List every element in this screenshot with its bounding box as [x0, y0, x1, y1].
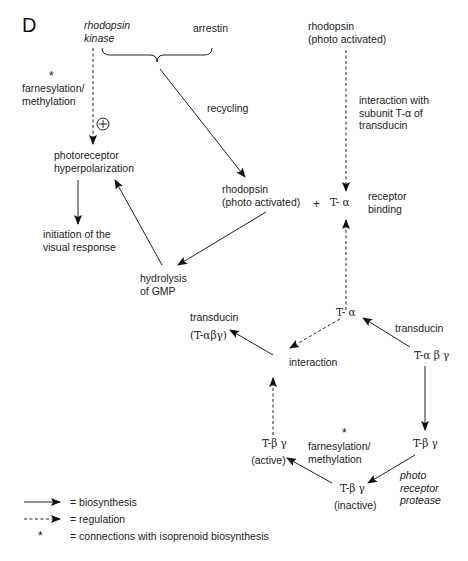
- rhodopsin-kinase-label: rhodopsin kinase: [84, 19, 130, 44]
- photo-receptor-protease-label: photo receptor protease: [400, 469, 441, 507]
- label-line: kinase: [84, 32, 130, 45]
- isoprenoid-star-icon: *: [49, 70, 54, 82]
- recycling-label: recycling: [207, 102, 248, 115]
- label-line: hydrolysis: [140, 272, 187, 285]
- label-line: photoreceptor: [54, 149, 134, 162]
- label-line: rhodopsin: [84, 19, 130, 32]
- label-line: binding: [368, 203, 407, 216]
- legend-biosynthesis: = biosynthesis: [70, 496, 137, 509]
- farnesylation-bottom-label: farnesylation/ methylation: [308, 440, 370, 465]
- transducin-left-label: transducin (T-αβγ): [190, 311, 238, 341]
- label-line: methylation: [22, 95, 84, 108]
- legend-isoprenoid: = connections with isoprenoid biosynthes…: [70, 530, 269, 543]
- label-line: (T-αβγ): [190, 329, 238, 342]
- label-line: (photo activated): [222, 196, 300, 209]
- plus-sign: +: [313, 198, 320, 211]
- label-line: rhodopsin: [222, 183, 300, 196]
- label-line: subunit T-α of: [359, 107, 429, 120]
- transducin-right-label: transducin: [395, 322, 443, 335]
- label-line: receptor: [368, 190, 407, 203]
- legend-star-icon: *: [38, 530, 43, 542]
- label-line: (photo activated): [308, 33, 386, 46]
- arrestin-label: arrestin: [193, 22, 228, 35]
- panel-label: D: [22, 14, 36, 37]
- rhodopsin-top-label: rhodopsin (photo activated): [308, 20, 386, 45]
- receptor-binding-label: receptor binding: [368, 190, 407, 215]
- label-line: initiation of the: [43, 228, 116, 241]
- t-alpha-beta-gamma-label: T-α β γ: [414, 349, 449, 362]
- farnesylation-top-label: farnesylation/ methylation: [22, 82, 84, 107]
- label-line: methylation: [308, 453, 370, 466]
- label-line: protease: [400, 494, 441, 507]
- isoprenoid-star-icon: *: [342, 427, 347, 439]
- label-line: hyperpolarization: [54, 162, 134, 175]
- interaction-label: interaction: [289, 356, 337, 369]
- label-line: (inactive): [334, 499, 377, 512]
- t-beta-gamma-active-label: T-β γ (active): [250, 437, 287, 466]
- label-line: (active): [250, 454, 287, 467]
- label-line: farnesylation/: [308, 440, 370, 453]
- interaction-with-label: interaction with subunit T-α of transduc…: [359, 94, 429, 132]
- label-line: photo: [400, 469, 441, 482]
- label-line: T-β γ: [334, 482, 377, 495]
- label-line: of GMP: [140, 285, 187, 298]
- t-beta-gamma-inactive-label: T-β γ (inactive): [334, 482, 377, 511]
- t-alpha-top-label: T- α: [330, 196, 350, 209]
- label-line: transducin: [359, 119, 429, 132]
- initiation-label: initiation of the visual response: [43, 228, 116, 253]
- label-line: rhodopsin: [308, 20, 386, 33]
- label-line: farnesylation/: [22, 82, 84, 95]
- label-line: T-β γ: [250, 437, 287, 450]
- label-line: transducin: [190, 311, 238, 324]
- label-line: receptor: [400, 482, 441, 495]
- rhodopsin-mid-label: rhodopsin (photo activated): [222, 183, 300, 208]
- photoreceptor-hyperpolarization-label: photoreceptor hyperpolarization: [54, 149, 134, 174]
- t-alpha-bottom-label: T- α: [336, 306, 356, 319]
- label-line: interaction with: [359, 94, 429, 107]
- hydrolysis-label: hydrolysis of GMP: [140, 272, 187, 297]
- t-beta-gamma-right-label: T-β γ: [413, 437, 438, 450]
- label-line: visual response: [43, 241, 116, 254]
- legend-regulation: = regulation: [70, 513, 125, 526]
